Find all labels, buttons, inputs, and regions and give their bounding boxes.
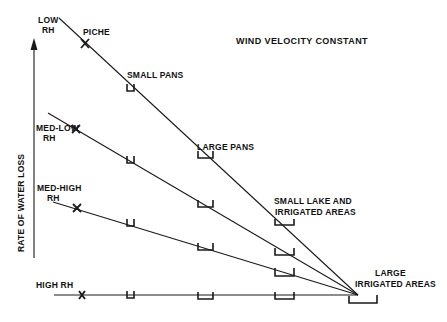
small-pan-markers (127, 84, 134, 298)
series-lines (48, 18, 358, 295)
large-irrigated-label-2: IRRIGATED AREAS (355, 279, 436, 289)
y-axis-label: RATE OF WATER LOSS (16, 154, 26, 252)
high-rh-label: HIGH RH (36, 280, 73, 290)
small-pans-label: SMALL PANS (127, 70, 184, 80)
medhigh-rh-label-2: RH (47, 193, 60, 203)
medlow-rh-label-2: RH (43, 133, 56, 143)
small-lake-label-1: SMALL LAKE AND (274, 196, 352, 206)
y-axis: RATE OF WATER LOSS (16, 38, 38, 258)
small-lake-label-2: IRRIGATED AREAS (275, 207, 356, 217)
low-rh-label-2: RH (42, 25, 55, 35)
arrow-up-icon (31, 38, 38, 50)
low-rh-label-1: LOW (38, 15, 59, 25)
large-pan-markers (198, 151, 213, 299)
x-marker-icon (81, 39, 89, 48)
low-rh-line (59, 18, 358, 295)
piche-markers (72, 39, 89, 299)
piche-label: PICHE (83, 27, 110, 37)
evaporation-diagram: RATE OF WATER LOSS WIND VELOCITY CONSTAN… (0, 0, 447, 322)
small-pan-icon (127, 84, 134, 91)
small-lake-icon (275, 219, 294, 225)
large-irrigated-label-1: LARGE (375, 268, 406, 278)
diagram-title: WIND VELOCITY CONSTANT (236, 36, 368, 46)
small-lake-markers (275, 219, 294, 299)
large-pans-label: LARGE PANS (197, 142, 254, 152)
large-irrigated-icon (349, 295, 377, 303)
large-pan-icon (198, 151, 213, 158)
medhigh-rh-label-1: MED-HIGH (37, 183, 82, 193)
